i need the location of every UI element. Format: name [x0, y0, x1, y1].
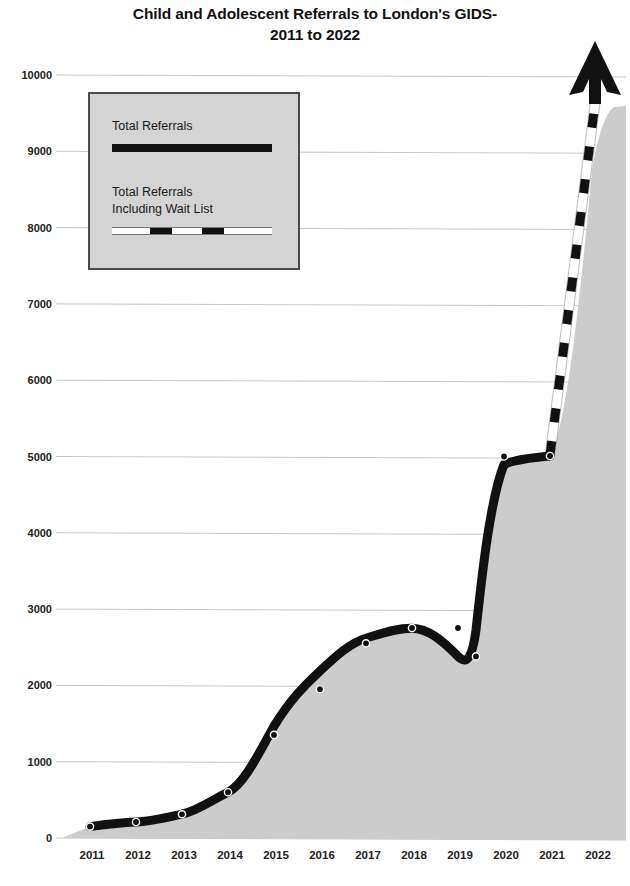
y-tick-4000: 4000: [0, 527, 52, 539]
x-tick-2021: 2021: [527, 849, 577, 861]
data-point-2013: [178, 811, 185, 818]
x-tick-2018: 2018: [389, 849, 439, 861]
gridline-10000: [56, 75, 626, 77]
x-tick-2014: 2014: [205, 849, 255, 861]
chart-plot-area: 10000 9000 8000 7000 6000 5000 4000 3000…: [0, 0, 630, 886]
legend-label-wait-list-line2: Including Wait List: [112, 201, 292, 218]
x-tick-2011: 2011: [67, 849, 117, 861]
y-tick-9000: 9000: [0, 145, 52, 157]
chart-legend: Total Referrals Total Referrals Includin…: [88, 92, 300, 270]
x-tick-2020: 2020: [481, 849, 531, 861]
legend-swatch-solid-line: [112, 144, 272, 152]
y-tick-3000: 3000: [0, 603, 52, 615]
legend-swatch-dashed-line: [112, 227, 272, 235]
arrowhead-icon: [569, 41, 621, 104]
data-point-2011: [86, 823, 93, 830]
x-tick-2013: 2013: [159, 849, 209, 861]
y-tick-7000: 7000: [0, 298, 52, 310]
y-tick-5000: 5000: [0, 451, 52, 463]
data-point-2014: [224, 789, 231, 796]
x-tick-2016: 2016: [297, 849, 347, 861]
legend-label-total-referrals: Total Referrals: [112, 118, 292, 135]
data-point-2015: [270, 731, 277, 738]
y-tick-1000: 1000: [0, 756, 52, 768]
y-tick-8000: 8000: [0, 222, 52, 234]
y-tick-2000: 2000: [0, 679, 52, 691]
legend-label-wait-list-line1: Total Referrals: [112, 184, 292, 201]
data-point-2018: [408, 624, 415, 631]
data-point-2022: [546, 452, 553, 459]
x-tick-2022: 2022: [573, 849, 623, 861]
y-tick-0: 0: [0, 832, 52, 844]
data-point-2012: [132, 818, 139, 825]
x-tick-2017: 2017: [343, 849, 393, 861]
data-point-2021: [500, 453, 507, 460]
y-tick-6000: 6000: [0, 374, 52, 386]
data-point-2017: [362, 640, 369, 647]
x-tick-2012: 2012: [113, 849, 163, 861]
data-point-2016: [316, 686, 323, 693]
x-tick-2019: 2019: [435, 849, 485, 861]
y-tick-10000: 10000: [0, 69, 52, 81]
data-point-2020: [472, 653, 479, 660]
gridline-6000: [56, 380, 626, 382]
legend-entry-wait-list: Total Referrals Including Wait List: [112, 184, 292, 235]
legend-entry-total-referrals: Total Referrals: [112, 118, 292, 152]
gridline-7000: [56, 304, 626, 306]
data-point-2019: [454, 624, 461, 631]
x-tick-2015: 2015: [251, 849, 301, 861]
